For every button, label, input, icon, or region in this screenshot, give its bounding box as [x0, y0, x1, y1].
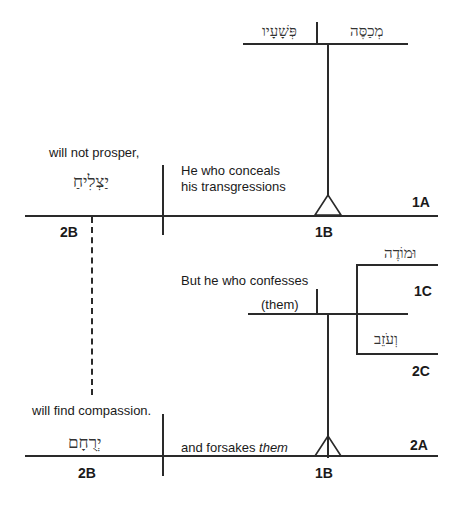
- label-1C: 1C: [414, 283, 432, 299]
- clause2-baseline: [25, 455, 438, 457]
- hebrew-veozev: וְעֹזֵב: [374, 330, 398, 348]
- compound-bottom-line: [356, 353, 438, 355]
- label-1B-bottom: 1B: [315, 465, 333, 481]
- label-2B-bottom: 2B: [78, 465, 96, 481]
- subject1-baseline: [243, 43, 408, 45]
- hebrew-peshaav: פְּשָׁעָיו: [262, 22, 297, 40]
- hebrew-mekasseh: מְכַסֶּה: [350, 22, 383, 40]
- gloss-will-find-compassion: will find compassion.: [32, 403, 151, 418]
- label-2A: 2A: [410, 437, 428, 453]
- subject1-divider: [316, 22, 318, 44]
- label-2C: 2C: [412, 363, 430, 379]
- object-divider: [316, 289, 318, 314]
- hebrew-yatsliach: יַצְלִיחַ: [73, 171, 109, 192]
- gloss-conceals: He who conceals: [181, 163, 280, 178]
- compound-bracket-vertical: [356, 264, 358, 355]
- hebrew-umodeh: וּמוֹדֶה: [384, 244, 416, 262]
- gloss-them-object: (them): [261, 297, 299, 312]
- gloss-but-he-who-confesses: But he who confesses: [181, 273, 308, 288]
- label-1B-top: 1B: [315, 224, 333, 240]
- clause1-divider: [162, 165, 164, 235]
- dashed-connector: [91, 217, 93, 395]
- clause2-divider: [162, 414, 164, 476]
- subject1-stem: [327, 44, 329, 196]
- label-1A: 1A: [412, 194, 430, 210]
- gloss-and-forsakes-them: and forsakes them: [181, 440, 288, 455]
- gloss-them-italic: them: [259, 440, 288, 455]
- gloss-will-not-prosper: will not prosper,: [49, 145, 139, 160]
- clause1-baseline: [25, 215, 438, 217]
- gloss-and-forsakes: and forsakes: [181, 440, 259, 455]
- hebrew-yeruchamu: יְרֻחָם: [68, 432, 101, 453]
- gloss-transgressions: his transgressions: [181, 179, 286, 194]
- compound-top-line: [356, 264, 438, 266]
- label-2B-top: 2B: [60, 224, 78, 240]
